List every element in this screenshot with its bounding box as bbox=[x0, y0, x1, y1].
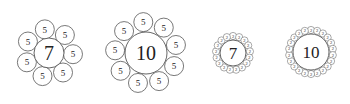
ring-circle: 5 bbox=[165, 57, 184, 76]
ring-label: 2 bbox=[249, 49, 251, 54]
ring-label: 2 bbox=[332, 46, 334, 51]
ring-circle: 5 bbox=[128, 73, 147, 92]
ring-label: 2 bbox=[293, 64, 295, 69]
center-circle: 10 bbox=[125, 32, 167, 74]
center-circle: 7 bbox=[220, 40, 246, 66]
ring-circle: 5 bbox=[35, 20, 54, 39]
ring-label: 2 bbox=[229, 67, 231, 72]
center-label: 7 bbox=[44, 42, 54, 64]
ring-label: 2 bbox=[248, 55, 250, 60]
ring-circle: 5 bbox=[63, 45, 82, 64]
ring-label: 5 bbox=[26, 37, 31, 47]
ring-label: 2 bbox=[298, 68, 300, 73]
ring-label: 5 bbox=[61, 68, 66, 78]
ring-label: 2 bbox=[288, 46, 290, 51]
center-circle: 10 bbox=[293, 34, 329, 70]
ring-circle: 5 bbox=[134, 13, 153, 32]
ring-label: 2 bbox=[218, 61, 220, 66]
ring-label: 2 bbox=[238, 35, 240, 40]
ring-label: 2 bbox=[304, 28, 306, 33]
ring-label: 2 bbox=[327, 64, 329, 69]
ring-label: 2 bbox=[310, 28, 312, 33]
ring-label: 2 bbox=[241, 65, 243, 70]
ring-label: 2 bbox=[322, 68, 324, 73]
ring-label: 2 bbox=[220, 38, 222, 43]
ring-circle: 5 bbox=[111, 61, 130, 80]
ring-label: 2 bbox=[310, 72, 312, 77]
diagram-canvas: 5555555755555555510222222222222222227222… bbox=[0, 0, 350, 104]
ring-label: 5 bbox=[25, 57, 30, 67]
ring-label: 5 bbox=[162, 23, 167, 33]
ring-circle: 5 bbox=[106, 41, 125, 60]
ring-label: 5 bbox=[174, 40, 179, 50]
center-label: 10 bbox=[136, 42, 156, 64]
ring-label: 5 bbox=[118, 66, 123, 76]
ring-circle: 5 bbox=[166, 35, 185, 54]
center-circle: 7 bbox=[34, 38, 64, 68]
ring-label: 2 bbox=[304, 71, 306, 76]
ring-label: 2 bbox=[316, 28, 318, 33]
ring-label: 2 bbox=[217, 43, 219, 48]
ring-circle: 2 bbox=[223, 34, 230, 41]
circle-diagram-2: 55555555510 bbox=[106, 13, 186, 93]
ring-label: 2 bbox=[327, 35, 329, 40]
ring-label: 5 bbox=[43, 25, 48, 35]
center-label: 7 bbox=[229, 44, 238, 63]
ring-label: 5 bbox=[63, 30, 68, 40]
ring-label: 2 bbox=[235, 67, 237, 72]
ring-label: 2 bbox=[288, 53, 290, 58]
ring-label: 2 bbox=[223, 65, 225, 70]
center-label: 10 bbox=[303, 43, 320, 62]
ring-label: 2 bbox=[245, 61, 247, 66]
ring-label: 2 bbox=[247, 43, 249, 48]
ring-label: 2 bbox=[216, 55, 218, 60]
ring-label: 5 bbox=[172, 61, 177, 71]
ring-label: 2 bbox=[290, 59, 292, 64]
ring-label: 2 bbox=[293, 35, 295, 40]
ring-label: 2 bbox=[243, 38, 245, 43]
ring-label: 2 bbox=[290, 40, 292, 45]
ring-circle: 5 bbox=[17, 53, 36, 72]
ring-label: 5 bbox=[136, 78, 141, 88]
ring-label: 2 bbox=[330, 59, 332, 64]
ring-label: 2 bbox=[330, 40, 332, 45]
ring-label: 5 bbox=[40, 71, 45, 81]
ring-label: 2 bbox=[215, 49, 217, 54]
ring-circle: 5 bbox=[33, 67, 52, 86]
ring-label: 2 bbox=[316, 71, 318, 76]
ring-circle: 5 bbox=[115, 22, 134, 41]
ring-label: 2 bbox=[226, 35, 228, 40]
ring-circle: 5 bbox=[150, 72, 169, 91]
ring-circle: 2 bbox=[301, 27, 308, 34]
ring-label: 5 bbox=[157, 76, 162, 86]
circle-diagram-3: 222222222222222227 bbox=[212, 32, 253, 73]
circle-diagram-4: 222222222222222222222210 bbox=[286, 26, 337, 77]
ring-label: 2 bbox=[298, 31, 300, 36]
ring-label: 5 bbox=[141, 17, 146, 27]
ring-label: 5 bbox=[122, 26, 127, 36]
ring-label: 2 bbox=[322, 31, 324, 36]
ring-label: 5 bbox=[71, 49, 76, 59]
circle-diagram-1: 55555557 bbox=[17, 20, 82, 86]
ring-label: 5 bbox=[113, 45, 118, 55]
ring-label: 2 bbox=[232, 34, 234, 39]
ring-circle: 5 bbox=[154, 18, 173, 37]
ring-label: 2 bbox=[332, 53, 334, 58]
